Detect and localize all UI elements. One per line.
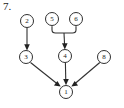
edge-merge-to-4 [62,33,68,50]
node-4[interactable]: 4 [59,50,72,63]
edge-merge-to-4-arrowhead [62,43,68,49]
edge-8-to-1 [71,63,100,87]
edge-3-to-1-line [31,63,58,85]
node-3-label: 3 [24,53,28,61]
edge-4-to-1-arrowhead [63,79,69,85]
node-5[interactable]: 5 [46,13,59,26]
node-2-label: 2 [25,17,29,25]
node-8[interactable]: 8 [98,51,111,64]
node-2[interactable]: 2 [21,15,34,28]
node-3[interactable]: 3 [20,51,33,64]
node-5-label: 5 [50,15,54,23]
node-1-label: 1 [64,88,68,96]
merge-bracket-5-6 [52,27,76,34]
merge-bracket-path [52,27,76,34]
edge-4-to-1 [63,63,69,86]
figure-container: 7. 2 [0,0,124,108]
edge-3-to-1 [31,63,61,87]
edge-2-to-3 [24,28,30,51]
node-4-label: 4 [63,52,67,60]
node-6[interactable]: 6 [70,13,83,26]
edge-8-to-1-line [75,63,100,85]
edge-2-to-3-arrowhead [24,44,30,50]
graph-canvas: 2 5 6 3 4 8 1 [0,0,124,108]
node-1[interactable]: 1 [60,86,73,99]
node-8-label: 8 [102,53,106,61]
node-6-label: 6 [74,15,78,23]
